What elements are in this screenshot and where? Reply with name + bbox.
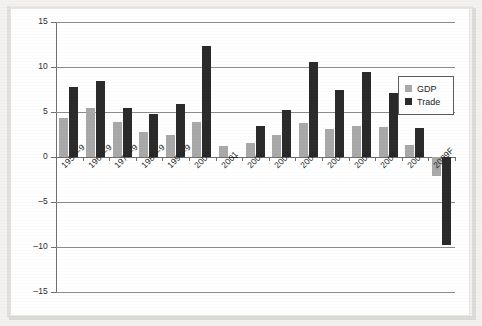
legend-label-trade: Trade <box>417 97 440 107</box>
bar-gdp-2007 <box>379 127 388 157</box>
x-tick-mark-1950–9 <box>83 157 84 161</box>
x-tick-mark-2004 <box>322 157 323 161</box>
legend-swatch-gdp <box>405 85 412 92</box>
y-tick-label-5: 5 <box>16 106 48 116</box>
x-tick-mark-1980–9 <box>162 157 163 161</box>
x-tick-mark-2001 <box>242 157 243 161</box>
bar-gdp-2005 <box>325 129 334 157</box>
bar-gdp-2004 <box>299 123 308 157</box>
legend-label-gdp: GDP <box>417 84 437 94</box>
bar-trade-2006 <box>362 72 371 157</box>
bar-trade-2009F <box>442 157 451 245</box>
y-tick-label-0: 0 <box>16 151 48 161</box>
bar-gdp-2000 <box>192 122 201 157</box>
bar-gdp-1980–9 <box>139 132 148 157</box>
gridline--15 <box>56 292 455 293</box>
legend-swatch-trade <box>405 98 412 105</box>
y-tick-label-15: 15 <box>16 16 48 26</box>
chart-legend[interactable]: GDP Trade <box>398 76 454 115</box>
legend-item-trade[interactable]: Trade <box>405 95 448 108</box>
x-tick-mark-2002 <box>269 157 270 161</box>
bar-trade-2005 <box>335 90 344 157</box>
bar-chart: 151050–5–10–15 1950–91960–91970–91980–91… <box>0 0 482 326</box>
legend-item-gdp[interactable]: GDP <box>405 82 448 95</box>
x-tick-mark-2003 <box>295 157 296 161</box>
x-tick-mark-1990–9 <box>189 157 190 161</box>
y-tick-label--5: –5 <box>16 196 48 206</box>
y-tick-mark--15 <box>51 292 56 293</box>
x-tick-mark-1960–9 <box>109 157 110 161</box>
y-tick-label--15: –15 <box>16 286 48 296</box>
x-tick-mark-2008 <box>428 157 429 161</box>
x-tick-mark-2009F <box>455 157 456 161</box>
bar-gdp-1950–9 <box>59 118 68 157</box>
x-tick-mark-2007 <box>402 157 403 161</box>
x-tick-mark-2006 <box>375 157 376 161</box>
bar-trade-2000 <box>202 46 211 157</box>
x-tick-mark-2000 <box>216 157 217 161</box>
bar-gdp-1960–9 <box>86 108 95 157</box>
bar-gdp-1970–9 <box>113 122 122 157</box>
bar-trade-2004 <box>309 62 318 157</box>
x-tick-mark-1970–9 <box>136 157 137 161</box>
x-tick-mark-2005 <box>349 157 350 161</box>
bar-gdp-2006 <box>352 126 361 158</box>
y-tick-label-10: 10 <box>16 61 48 71</box>
y-tick-label--10: –10 <box>16 241 48 251</box>
bar-trade-2007 <box>389 93 398 157</box>
